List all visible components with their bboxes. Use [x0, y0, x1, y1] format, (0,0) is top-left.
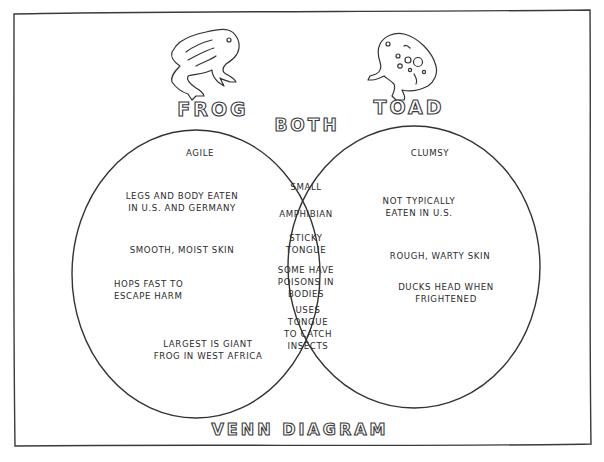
both-item: SOME HAVE POISONS IN BODIES: [266, 264, 346, 300]
both-item: STICKY TONGUE: [266, 232, 346, 256]
both-item-line: AMPHIBIAN: [266, 208, 346, 220]
both-item-line: BODIES: [266, 288, 346, 300]
frog-item-line: LEGS AND BODY EATEN: [100, 190, 264, 202]
both-item-line: POISONS IN: [266, 276, 346, 288]
both-item-line: SMALL: [266, 181, 346, 193]
diagram-artwork: [0, 0, 604, 462]
frog-item-line: IN U.S. AND GERMANY: [100, 202, 264, 214]
both-item-line: TO CATCH: [268, 328, 348, 340]
frog-item-line: LARGEST IS GIANT: [126, 338, 290, 350]
toad-item: DUCKS HEAD WHEN FRIGHTENED: [376, 281, 516, 305]
frame-border: [14, 10, 591, 446]
toad-item-line: FRIGHTENED: [376, 293, 516, 305]
frog-item-line: FROG IN WEST AFRICA: [126, 350, 290, 362]
toad-item: ROUGH, WARTY SKIN: [370, 250, 510, 262]
both-item-line: TONGUE: [268, 316, 348, 328]
both-item-line: INSECTS: [268, 340, 348, 352]
toad-set-title: TOAD: [354, 96, 464, 118]
both-item-line: TONGUE: [266, 244, 346, 256]
venn-diagram-page: FROG TOAD BOTH VENN DIAGRAM AGILE LEGS A…: [0, 0, 604, 462]
frog-item-line: HOPS FAST TO: [114, 278, 234, 290]
frog-item: HOPS FAST TO ESCAPE HARM: [114, 278, 234, 302]
frog-item-line: ESCAPE HARM: [114, 290, 234, 302]
frog-illustration-icon: [171, 29, 239, 100]
both-item-line: STICKY: [266, 232, 346, 244]
both-item: SMALL: [266, 181, 346, 193]
diagram-title: VENN DIAGRAM: [190, 420, 410, 439]
frog-item-line: SMOOTH, MOIST SKIN: [100, 244, 264, 256]
toad-item: NOT TYPICALLY EATEN IN U.S.: [364, 195, 474, 219]
both-item: AMPHIBIAN: [266, 208, 346, 220]
both-item-line: SOME HAVE: [266, 264, 346, 276]
frog-heading: AGILE: [160, 147, 240, 159]
overlap-title: BOTH: [252, 115, 362, 135]
frog-item: SMOOTH, MOIST SKIN: [100, 244, 264, 256]
toad-item-line: ROUGH, WARTY SKIN: [370, 250, 510, 262]
toad-item-line: NOT TYPICALLY: [364, 195, 474, 207]
toad-item-line: DUCKS HEAD WHEN: [376, 281, 516, 293]
both-item: USES TONGUE TO CATCH INSECTS: [268, 304, 348, 352]
frog-item: LEGS AND BODY EATEN IN U.S. AND GERMANY: [100, 190, 264, 214]
frog-item: LARGEST IS GIANT FROG IN WEST AFRICA: [126, 338, 290, 362]
toad-item-line: EATEN IN U.S.: [364, 207, 474, 219]
toad-illustration-icon: [368, 33, 437, 100]
toad-heading: CLUMSY: [390, 147, 470, 159]
both-item-line: USES: [268, 304, 348, 316]
